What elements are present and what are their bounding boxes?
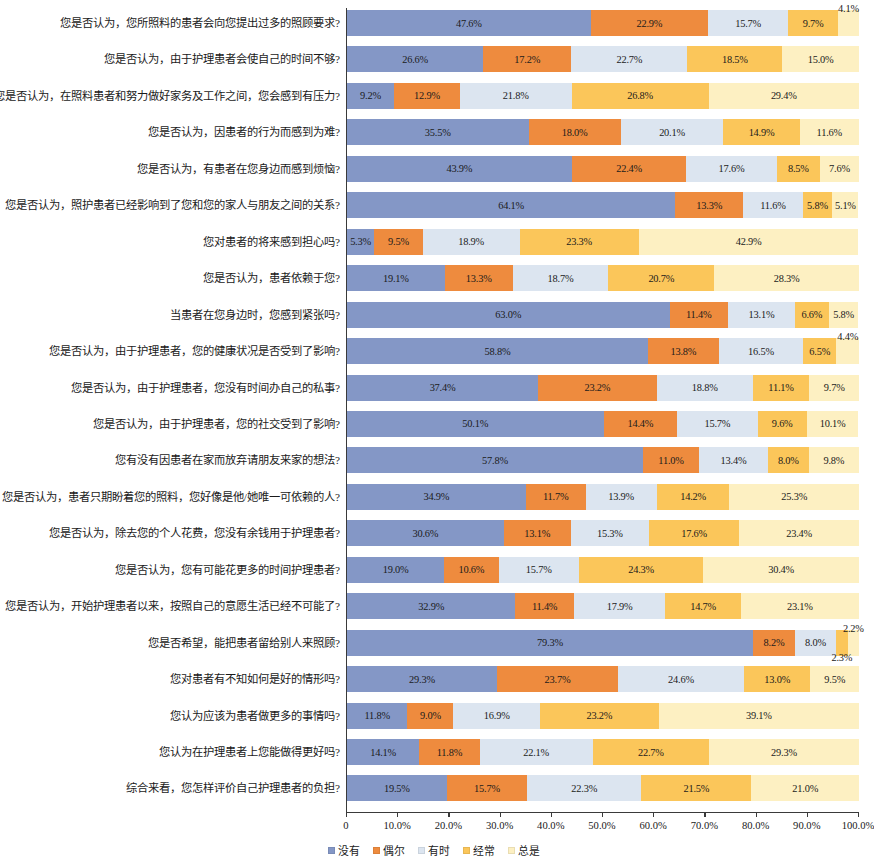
category-label: 您是否认为，患者只期盼着您的照料，您好像是他/她唯一可依赖的人? (6, 484, 340, 510)
category-label-text: 您是否认为，您所照料的患者会向您提出过多的照顾要求? (60, 16, 340, 30)
bar-segment-value: 13.1% (749, 309, 775, 320)
bar-segment: 13.3% (445, 265, 513, 291)
chart-row: 您是否认为，患者依赖于您?19.1%13.3%18.7%20.7%28.3% (0, 265, 868, 291)
bar-segment: 37.4% (347, 375, 538, 401)
bar-segment-value: 42.9% (736, 236, 762, 247)
bar-segment: 15.3% (571, 520, 649, 546)
bar-segment: 6.6% (795, 302, 829, 328)
bar-segment-value: 30.4% (768, 564, 794, 575)
bar-segment-value: 47.6% (456, 18, 482, 29)
bar-segment-value: 11.8% (437, 747, 462, 758)
bar-segment: 47.6% (347, 10, 591, 36)
bar-segment-value: 23.1% (787, 601, 813, 612)
bar-segment: 9.8% (809, 447, 859, 473)
category-label-text: 您是否认为，您有可能花更多的时间护理患者? (115, 563, 340, 577)
bar-segment: 22.4% (572, 156, 687, 182)
category-label: 您是否认为，有患者在您身边而感到烦恼? (6, 156, 340, 182)
bar-segment: 11.0% (643, 447, 699, 473)
bar-segment-value: 35.5% (425, 127, 451, 138)
legend-label: 偶尔 (383, 842, 405, 858)
bar-segment-value: 21.0% (792, 783, 818, 794)
bar-segment-value: 9.2% (360, 90, 381, 101)
category-label: 您对患者有不知如何是好的情形吗? (6, 666, 340, 692)
bar-segment-value: 18.0% (562, 127, 588, 138)
legend-label: 没有 (338, 842, 360, 858)
bar-segment-value: 30.6% (412, 528, 438, 539)
category-label-text: 您对患者有不知如何是好的情形吗? (170, 672, 340, 686)
bar-segment: 19.1% (347, 265, 445, 291)
bar-segment: 29.4% (709, 83, 859, 109)
x-axis-tick-label: 0 (343, 820, 348, 831)
chart-row: 您是否认为，由于护理患者，您没有时间办自己的私事?37.4%23.2%18.8%… (0, 375, 868, 401)
bar-segment-value: 64.1% (498, 200, 524, 211)
bar-segment-value: 23.2% (584, 382, 610, 393)
bar-segment: 5.1% (832, 192, 858, 218)
bar-segment-value: 10.1% (820, 418, 846, 429)
bar-segment-value: 17.9% (607, 601, 633, 612)
bar-segment-value: 5.8% (833, 309, 854, 320)
bar-segment: 13.8% (648, 338, 719, 364)
category-label-text: 您是否认为，由于护理患者，您的社交受到了影响? (93, 417, 340, 431)
category-label: 您对患者的将来感到担心吗? (6, 229, 340, 255)
x-axis-tick-mark (653, 812, 654, 817)
bar-segment: 20.7% (608, 265, 714, 291)
bar-segment-value: 11.4% (532, 601, 557, 612)
bar-segment-value: 15.7% (735, 18, 761, 29)
bar-track: 19.5%15.7%22.3%21.5%21.0% (347, 775, 859, 801)
bar-segment-value: 23.7% (545, 674, 571, 685)
category-label: 您是否认为，由于护理患者，您的社交受到了影响? (6, 411, 340, 437)
bar-segment-value: 22.3% (571, 783, 597, 794)
bar-segment: 18.9% (423, 229, 520, 255)
bar-segment: 23.7% (497, 666, 618, 692)
bar-segment: 22.3% (527, 775, 641, 801)
bar-segment: 23.2% (538, 375, 657, 401)
bar-segment-value: 9.5% (388, 236, 409, 247)
legend-item[interactable]: 偶尔 (373, 842, 405, 858)
bar-segment: 50.1% (347, 411, 604, 437)
bar-segment: 29.3% (709, 739, 859, 765)
legend-item[interactable]: 有时 (418, 842, 450, 858)
x-axis-tick-label: 100.0% (842, 820, 874, 831)
legend-item[interactable]: 没有 (328, 842, 360, 858)
bar-segment: 13.1% (728, 302, 795, 328)
bar-segment: 22.9% (591, 10, 708, 36)
bar-segment: 16.5% (719, 338, 803, 364)
category-label: 当患者在您身边时，您感到紧张吗? (6, 302, 340, 328)
bar-segment-value: 63.0% (495, 309, 521, 320)
legend-swatch-icon (463, 847, 470, 854)
chart-row: 当患者在您身边时，您感到紧张吗?63.0%11.4%13.1%6.6%5.8% (0, 302, 868, 328)
bar-segment: 42.9% (639, 229, 859, 255)
category-label-text: 您认为应该为患者做更多的事情吗? (170, 709, 340, 723)
bar-segment-value: 57.8% (482, 455, 508, 466)
x-axis-tick-mark (807, 812, 808, 817)
bar-segment-value: 14.7% (690, 601, 716, 612)
bar-segment: 34.9% (347, 484, 526, 510)
bar-segment: 9.2% (347, 83, 394, 109)
bar-segment-value: 2.2% (843, 623, 864, 634)
chart-row: 您是否认为，您有可能花更多的时间护理患者?19.0%10.6%15.7%24.3… (0, 557, 868, 583)
bar-segment: 8.2% (753, 630, 795, 656)
bar-segment-value: 13.8% (670, 346, 696, 357)
bar-segment: 14.1% (347, 739, 419, 765)
bar-segment: 9.0% (407, 703, 453, 729)
bar-segment-value: 43.9% (446, 163, 472, 174)
bar-segment-value: 19.0% (383, 564, 409, 575)
category-label: 您认为在护理患者上您能做得更好吗? (6, 739, 340, 765)
category-label-text: 当患者在您身边时，您感到紧张吗? (170, 308, 340, 322)
bar-segment: 18.7% (513, 265, 609, 291)
x-axis-tick-label: 20.0% (435, 820, 462, 831)
category-label-text: 您是否希望，能把患者留给别人来照顾? (148, 636, 340, 650)
bar-segment-value: 29.3% (771, 747, 797, 758)
bar-segment: 58.8% (347, 338, 648, 364)
legend-item[interactable]: 经常 (463, 842, 495, 858)
category-label: 您是否希望，能把患者留给别人来照顾? (6, 630, 340, 656)
legend-item[interactable]: 总是 (508, 842, 540, 858)
bar-segment-value: 11.4% (686, 309, 711, 320)
bar-segment-value: 24.3% (628, 564, 654, 575)
bar-segment-value: 12.9% (414, 90, 440, 101)
bar-segment-value: 6.5% (809, 346, 830, 357)
x-axis-tick-label: 60.0% (640, 820, 667, 831)
bar-segment-value: 22.7% (616, 54, 642, 65)
category-label: 您是否认为，照护患者已经影响到了您和您的家人与朋友之间的关系? (6, 192, 340, 218)
bar-segment-value: 17.6% (681, 528, 707, 539)
